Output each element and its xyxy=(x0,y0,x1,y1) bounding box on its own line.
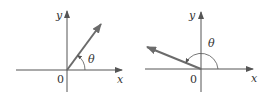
angle-arc xyxy=(186,53,218,69)
figure: y x 0 θ y x 0 θ xyxy=(0,0,269,97)
angle-arc xyxy=(78,56,85,71)
x-axis-label: x xyxy=(251,72,258,85)
theta-label: θ xyxy=(88,53,95,66)
theta-label: θ xyxy=(208,37,215,50)
y-axis-label: y xyxy=(55,9,63,22)
x-axis-label: x xyxy=(117,73,124,86)
diagram-second-quadrant: y x 0 θ xyxy=(145,9,258,92)
origin-label: 0 xyxy=(190,73,197,86)
vector-arrow xyxy=(147,47,201,69)
origin-label: 0 xyxy=(57,73,64,86)
diagram-first-quadrant: y x 0 θ xyxy=(16,9,124,92)
y-axis-label: y xyxy=(188,9,196,22)
